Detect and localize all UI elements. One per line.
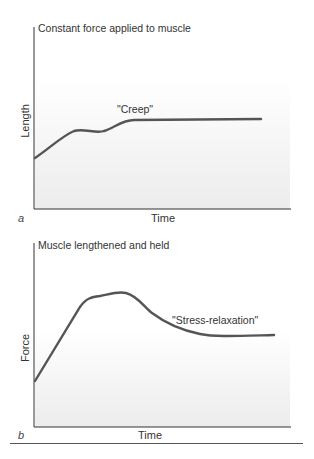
plot-b-background bbox=[35, 330, 290, 427]
stress-relaxation-annotation: "Stress-relaxation" bbox=[172, 314, 258, 326]
panel-b-letter: b bbox=[18, 429, 24, 441]
caption-divider bbox=[10, 443, 303, 444]
y-axis-b-label: Force bbox=[19, 328, 31, 368]
panel-b: Muscle lengthened and held "Stress-relax… bbox=[0, 0, 314, 459]
x-axis-b-label: Time bbox=[138, 429, 162, 441]
chart-b-plot bbox=[0, 0, 314, 459]
chart-b-title: Muscle lengthened and held bbox=[38, 239, 169, 251]
